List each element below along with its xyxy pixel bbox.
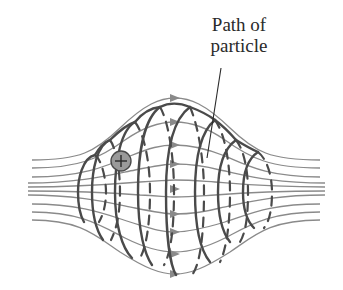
magnetic-bottle-diagram xyxy=(0,0,343,290)
arrow-icon xyxy=(170,210,180,218)
arrow-icon xyxy=(170,160,180,168)
arrow-icon xyxy=(170,94,180,102)
positive-particle xyxy=(111,151,131,171)
particle-helical-path xyxy=(78,104,272,275)
label-pointer-line xyxy=(207,68,221,158)
